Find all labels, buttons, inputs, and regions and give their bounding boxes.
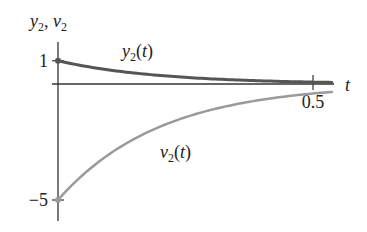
ticks: 0.51−5 [29, 51, 324, 210]
series [55, 58, 332, 203]
y-axis-title: y2, v2 [28, 11, 67, 34]
x-axis-label: t [345, 75, 351, 95]
y-tick-label: −5 [29, 190, 48, 210]
start-point-marker [55, 58, 61, 64]
y-tick-label: 1 [39, 51, 48, 71]
plot-area: y2, v2 t 0.51−5 y2(t) v2(t) [0, 0, 367, 232]
start-point-marker [55, 197, 61, 203]
series-line-y2 [58, 61, 332, 83]
chart: y2, v2 t 0.51−5 y2(t) v2(t) [0, 0, 367, 232]
series-label-y2: y2(t) [120, 41, 153, 64]
series-line-v2 [58, 92, 332, 200]
series-label-v2: v2(t) [160, 142, 191, 165]
